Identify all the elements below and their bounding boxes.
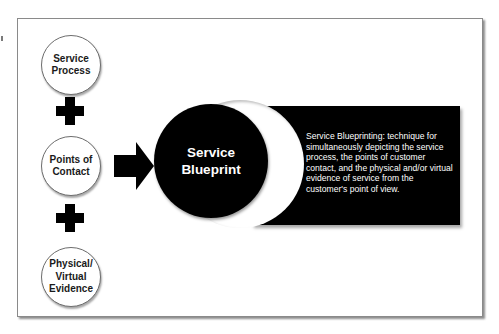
physical-virtual-evidence-circle: Physical/ Virtual Evidence	[41, 247, 101, 307]
service-process-circle: Service Process	[41, 35, 101, 95]
physical-virtual-evidence-label: Physical/ Virtual Evidence	[49, 258, 93, 296]
points-of-contact-circle: Points of Contact	[41, 136, 101, 196]
service-blueprint-label: Service Blueprint	[181, 144, 240, 178]
service-process-label: Service Process	[52, 53, 91, 78]
service-blueprint-circle: Service Blueprint	[154, 104, 268, 218]
plus-icon	[56, 204, 84, 232]
definition-text: Service Blueprinting: technique for simu…	[306, 131, 456, 195]
points-of-contact-label: Points of Contact	[50, 154, 93, 179]
plus-icon	[56, 97, 84, 125]
edge-mark	[1, 36, 3, 41]
arrow-right-icon	[114, 142, 154, 190]
